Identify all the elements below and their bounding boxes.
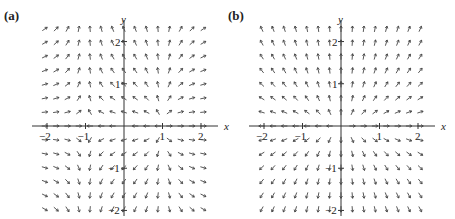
y-axis-label: y [120,13,126,25]
y-tick-label: 1 [115,78,121,90]
y-tick-label: 2 [115,36,121,48]
x-axis-label: x [440,120,446,132]
y-tick-label: 2 [332,36,338,48]
vector-field-figure: xy−2−11221−1−2xy−2−11221−1−2 [0,0,455,219]
x-tick-label: −1 [295,130,307,142]
panel-a-plot: xy−2−11221−1−2 [32,13,229,216]
x-tick-label: 1 [377,130,383,142]
panel-b-plot: xy−2−11221−1−2 [249,13,446,216]
x-tick-label: 1 [160,130,166,142]
y-tick-label: −2 [108,204,120,216]
x-tick-label: 2 [415,130,421,142]
x-axis-label: x [223,120,229,132]
y-tick-label: −1 [325,162,337,174]
y-axis-label: y [337,13,343,25]
y-tick-label: −1 [108,162,120,174]
y-tick-label: 1 [332,78,338,90]
